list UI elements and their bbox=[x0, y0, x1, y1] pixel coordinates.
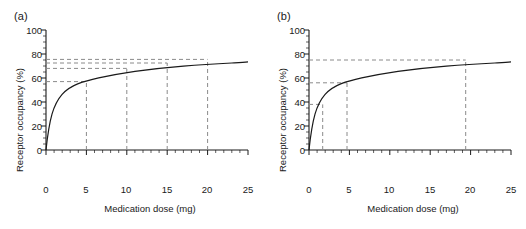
panel-b-x-major-ticks bbox=[309, 150, 511, 155]
panel-a-occupancy-curve bbox=[46, 62, 248, 150]
receptor-occupancy-figure: (a) Receptor occupancy (%) Medication do… bbox=[0, 0, 526, 229]
panel-a-plot bbox=[0, 0, 263, 229]
panel-a: (a) Receptor occupancy (%) Medication do… bbox=[0, 0, 263, 229]
panel-b-occupancy-curve bbox=[309, 62, 511, 150]
panel-b: (b) Receptor occupancy (%) Medication do… bbox=[263, 0, 526, 229]
panel-a-x-major-ticks bbox=[46, 150, 248, 155]
panel-b-plot bbox=[263, 0, 526, 229]
